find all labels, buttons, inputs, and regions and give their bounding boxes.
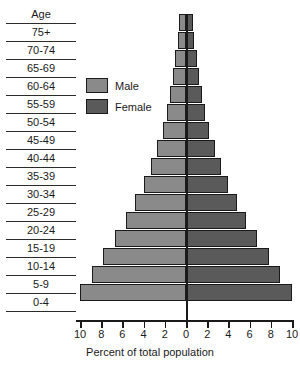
population-pyramid-figure: Age 75+70-7465-6960-6455-5950-5445-4940-… bbox=[0, 0, 300, 367]
bar-female bbox=[186, 248, 269, 265]
age-column-header: Age bbox=[6, 6, 76, 24]
x-axis-tick-label: 4 bbox=[134, 328, 154, 340]
age-label-cell: 30-34 bbox=[6, 186, 76, 204]
bar-female bbox=[186, 158, 221, 175]
bar-male bbox=[173, 68, 186, 85]
bar-female bbox=[186, 68, 199, 85]
bar-female bbox=[186, 194, 237, 211]
x-axis-tick bbox=[101, 322, 103, 328]
age-label-cell: 70-74 bbox=[6, 42, 76, 60]
bar-female bbox=[186, 104, 205, 121]
center-axis-line bbox=[186, 14, 188, 321]
bar-female bbox=[186, 122, 209, 139]
bar-male bbox=[80, 284, 186, 301]
x-axis-tick bbox=[80, 322, 82, 328]
bar-female bbox=[186, 284, 292, 301]
bar-male bbox=[144, 176, 186, 193]
bar-male bbox=[167, 104, 186, 121]
x-axis-tick-label: 6 bbox=[112, 328, 132, 340]
age-label-cell: 45-49 bbox=[6, 132, 76, 150]
x-axis-tick-label: 10 bbox=[70, 328, 90, 340]
x-axis-tick bbox=[228, 322, 230, 328]
x-axis-title: Percent of total population bbox=[0, 346, 300, 358]
bar-female bbox=[186, 14, 193, 31]
bar-female bbox=[186, 32, 194, 49]
bar-female bbox=[186, 212, 246, 229]
age-label-cell: 55-59 bbox=[6, 96, 76, 114]
age-label-cell: 10-14 bbox=[6, 258, 76, 276]
x-axis-tick bbox=[144, 322, 146, 328]
age-label-cell: 0-4 bbox=[6, 294, 76, 312]
age-label-cell: 50-54 bbox=[6, 114, 76, 132]
bar-male bbox=[115, 230, 186, 247]
x-axis-tick bbox=[186, 322, 188, 328]
age-label-cell: 40-44 bbox=[6, 150, 76, 168]
bar-male bbox=[179, 14, 186, 31]
x-axis-tick-label: 10 bbox=[282, 328, 300, 340]
x-axis-tick-label: 8 bbox=[261, 328, 281, 340]
bar-male bbox=[178, 32, 186, 49]
legend-label: Female bbox=[115, 101, 152, 113]
bar-female bbox=[186, 140, 215, 157]
bar-female bbox=[186, 50, 197, 67]
x-axis-tick bbox=[122, 322, 124, 328]
x-axis-tick-label: 2 bbox=[155, 328, 175, 340]
x-axis-tick-label: 2 bbox=[197, 328, 217, 340]
legend-label: Male bbox=[115, 80, 139, 92]
legend-swatch-icon bbox=[86, 78, 108, 93]
bar-male bbox=[157, 140, 186, 157]
age-label-cell: 5-9 bbox=[6, 276, 76, 294]
bar-female bbox=[186, 86, 202, 103]
bar-male bbox=[135, 194, 186, 211]
age-label-cell: 35-39 bbox=[6, 168, 76, 186]
age-label-cell: 15-19 bbox=[6, 240, 76, 258]
legend: MaleFemale bbox=[86, 76, 152, 118]
x-axis-tick bbox=[292, 322, 294, 328]
x-axis-tick-label: 4 bbox=[218, 328, 238, 340]
age-label-cell: 60-64 bbox=[6, 78, 76, 96]
bar-male bbox=[151, 158, 186, 175]
bar-male bbox=[92, 266, 186, 283]
bar-female bbox=[186, 266, 280, 283]
legend-item: Female bbox=[86, 97, 152, 116]
legend-swatch-icon bbox=[86, 99, 108, 114]
bar-male bbox=[170, 86, 186, 103]
x-axis-tick-label: 0 bbox=[176, 328, 196, 340]
age-label-cell: 20-24 bbox=[6, 222, 76, 240]
age-label-cell: 25-29 bbox=[6, 204, 76, 222]
x-axis-tick-label: 8 bbox=[91, 328, 111, 340]
x-axis-tick bbox=[165, 322, 167, 328]
bar-male bbox=[126, 212, 186, 229]
x-axis-tick bbox=[271, 322, 273, 328]
bar-female bbox=[186, 176, 228, 193]
x-axis-line bbox=[76, 320, 294, 322]
bar-male bbox=[163, 122, 186, 139]
age-label-cell: 65-69 bbox=[6, 60, 76, 78]
bar-male bbox=[103, 248, 186, 265]
x-axis-tick bbox=[207, 322, 209, 328]
bar-male bbox=[175, 50, 186, 67]
x-axis-tick-label: 6 bbox=[240, 328, 260, 340]
bar-female bbox=[186, 230, 257, 247]
x-axis-tick bbox=[250, 322, 252, 328]
age-label-column: Age 75+70-7465-6960-6455-5950-5445-4940-… bbox=[6, 6, 76, 312]
legend-item: Male bbox=[86, 76, 152, 95]
age-label-cell: 75+ bbox=[6, 24, 76, 42]
